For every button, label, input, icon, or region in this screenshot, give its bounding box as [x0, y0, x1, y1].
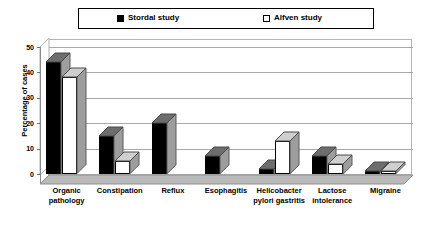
category-label-esophagitis: Esophagitis	[199, 186, 252, 196]
bar-migraine-stordal	[365, 171, 380, 174]
y-axis-ticks: 01020304050	[18, 47, 40, 183]
legend-entry-alfven: Alfven study	[263, 13, 322, 23]
bar-front-face	[152, 123, 167, 174]
category-label-line: pathology	[40, 196, 93, 206]
category-label-helicobacter-pylori-gastritis: Helicobacterpylori gastritis	[253, 186, 306, 205]
bar-front-face	[312, 156, 327, 174]
category-label-line: Helicobacter	[253, 186, 306, 196]
plot-area: 01020304050	[40, 47, 412, 183]
hollow-square-icon	[263, 15, 270, 22]
category-label-reflux: Reflux	[146, 186, 199, 196]
bar-front-face	[205, 156, 220, 174]
y-tick-label: 50	[18, 44, 34, 51]
bar-constipation-alfven	[115, 161, 130, 174]
category-label-line: pylori gastritis	[253, 196, 306, 206]
bar-lactose-intolerance-alfven	[328, 164, 343, 174]
y-tick-label: 20	[18, 120, 34, 127]
bar-front-face	[46, 62, 61, 174]
category-label-line: Organic	[40, 186, 93, 196]
bars-container	[40, 47, 412, 183]
bar-front-face	[99, 136, 114, 174]
category-label-line: Reflux	[146, 186, 199, 196]
category-label-line: intolerance	[306, 196, 359, 206]
bar-chart-figure: Stordal study Alfven study Percentage of…	[0, 0, 426, 225]
bar-front-face	[381, 171, 396, 174]
category-label-organic-pathology: Organicpathology	[40, 186, 93, 205]
y-tick-label: 40	[18, 69, 34, 76]
bar-organic-pathology-alfven	[62, 77, 77, 174]
bar-front-face	[365, 171, 380, 174]
bar-migraine-alfven	[381, 171, 396, 174]
bar-reflux-stordal	[152, 123, 167, 174]
bar-constipation-stordal	[99, 136, 114, 174]
legend-label-stordal: Stordal study	[128, 13, 179, 23]
bar-lactose-intolerance-stordal	[312, 156, 327, 174]
x-axis-category-labels: OrganicpathologyConstipationRefluxEsopha…	[40, 186, 412, 222]
bar-front-face	[115, 161, 130, 174]
category-label-lactose-intolerance: Lactoseintolerance	[306, 186, 359, 205]
category-label-line: Constipation	[93, 186, 146, 196]
bar-esophagitis-stordal	[205, 156, 220, 174]
category-label-line: Esophagitis	[199, 186, 252, 196]
category-label-migraine: Migraine	[359, 186, 412, 196]
y-tick-label: 0	[18, 171, 34, 178]
legend-label-alfven: Alfven study	[274, 13, 322, 23]
y-tick-label: 10	[18, 145, 34, 152]
category-label-constipation: Constipation	[93, 186, 146, 196]
bar-helicobacter-pylori-gastritis-stordal	[259, 169, 274, 174]
category-label-line: Migraine	[359, 186, 412, 196]
category-label-line: Lactose	[306, 186, 359, 196]
bar-front-face	[275, 141, 290, 174]
bar-front-face	[328, 164, 343, 174]
bar-helicobacter-pylori-gastritis-alfven	[275, 141, 290, 174]
legend-entry-stordal: Stordal study	[117, 13, 179, 23]
bar-front-face	[62, 77, 77, 174]
y-tick-label: 30	[18, 94, 34, 101]
bar-organic-pathology-stordal	[46, 62, 61, 174]
filled-square-icon	[117, 15, 124, 22]
bar-front-face	[259, 169, 274, 174]
chart-legend: Stordal study Alfven study	[78, 8, 374, 29]
